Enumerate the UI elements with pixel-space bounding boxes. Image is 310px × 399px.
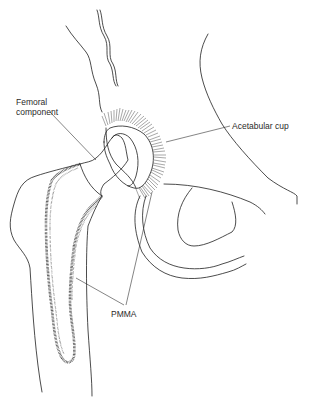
label-femoral-line1: Femoral: [16, 97, 58, 107]
leader-pmma-stem: [76, 278, 124, 305]
cup-bone-cement-bristles: [102, 108, 166, 199]
femur-outline: [10, 164, 102, 396]
leader-acetabular-cup: [166, 126, 230, 142]
leader-pmma-cup: [126, 192, 152, 305]
label-femoral-line2: component: [16, 107, 58, 117]
pmma-cement-mantle: [46, 164, 102, 362]
leader-lines: [50, 112, 230, 305]
pelvis-outline: [66, 10, 297, 279]
label-femoral-component: Femoral component: [16, 97, 58, 117]
acetabular-cup: [102, 108, 166, 199]
leader-femoral-component: [50, 112, 96, 160]
label-acetabular-cup: Acetabular cup: [232, 121, 289, 131]
hip-prosthesis-diagram: [0, 0, 310, 399]
label-pmma: PMMA: [111, 309, 137, 319]
